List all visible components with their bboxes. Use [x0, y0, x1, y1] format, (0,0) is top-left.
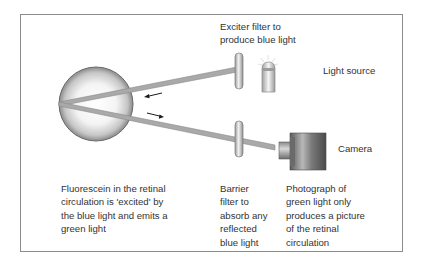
barrier-filter-label: Barrier filter to absorb any reflected b… [220, 182, 267, 249]
fluorescein-label: Fluorescein in the retinal circulation i… [61, 182, 168, 236]
exciter-filter-icon [235, 53, 243, 89]
arrow-left-icon [144, 93, 162, 98]
exciter-filter-label: Exciter filter to produce blue light [220, 20, 296, 47]
arrow-right-icon [147, 113, 164, 119]
camera-icon [279, 133, 326, 170]
camera-label: Camera [338, 142, 372, 155]
light-bulb-icon [258, 55, 278, 92]
light-source-label: Light source [323, 64, 375, 77]
barrier-filter-icon [235, 121, 243, 157]
photograph-label: Photograph of green light only produces … [286, 182, 365, 249]
